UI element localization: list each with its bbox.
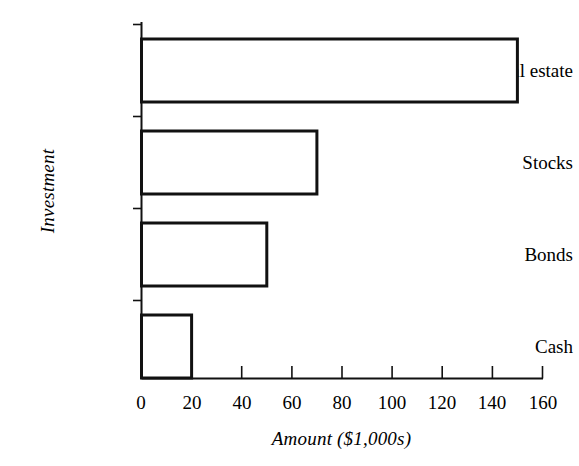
x-tick-label-160: 160 — [529, 392, 558, 414]
x-tick-label-0: 0 — [136, 392, 146, 414]
x-tick-label-100: 100 — [378, 392, 407, 414]
bar-bonds — [142, 223, 267, 286]
x-tick-label-20: 20 — [183, 392, 202, 414]
x-tick-label-40: 40 — [233, 392, 252, 414]
bar-stocks — [142, 131, 317, 194]
x-tick-label-140: 140 — [478, 392, 507, 414]
bar-chart: Investment Real estate Stocks Bonds Cash — [0, 0, 579, 466]
x-tick-label-120: 120 — [428, 392, 457, 414]
x-tick-label-60: 60 — [283, 392, 302, 414]
bar-cash — [142, 315, 192, 378]
x-tick-label-80: 80 — [333, 392, 352, 414]
x-axis-ticks — [142, 366, 543, 379]
x-axis-title: Amount ($1,000s) — [141, 428, 542, 450]
bar-real-estate — [142, 39, 518, 102]
